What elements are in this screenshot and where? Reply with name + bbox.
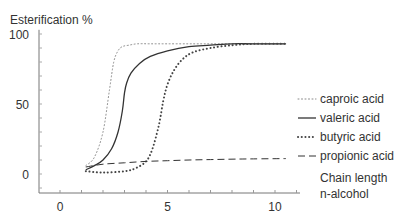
series-line-propionic-acid bbox=[86, 159, 286, 167]
x-axis-label-line2: n-alcohol bbox=[320, 187, 369, 201]
x-tick-label: 5 bbox=[164, 200, 171, 214]
axes: 0501000510 bbox=[9, 28, 300, 214]
legend-label-valeric-acid: valeric acid bbox=[320, 111, 380, 125]
legend: caproic acidvaleric acidbutyric acidprop… bbox=[298, 92, 394, 163]
series-line-valeric-acid bbox=[86, 44, 286, 170]
x-axis-label-line1: Chain length bbox=[320, 171, 387, 185]
y-axis-label: Esterification % bbox=[10, 13, 93, 27]
legend-label-caproic-acid: caproic acid bbox=[320, 92, 384, 106]
series-group bbox=[86, 44, 286, 173]
legend-label-butyric-acid: butyric acid bbox=[320, 130, 381, 144]
y-tick-label: 100 bbox=[9, 28, 29, 42]
series-line-caproic-acid bbox=[86, 44, 286, 166]
y-tick-label: 50 bbox=[16, 98, 30, 112]
series-line-butyric-acid bbox=[86, 44, 286, 173]
chart: 0501000510 Esterification % Chain length… bbox=[0, 0, 404, 221]
legend-label-propionic-acid: propionic acid bbox=[320, 149, 394, 163]
y-tick-label: 0 bbox=[22, 168, 29, 182]
x-tick-label: 0 bbox=[57, 200, 64, 214]
x-tick-label: 10 bbox=[268, 200, 282, 214]
